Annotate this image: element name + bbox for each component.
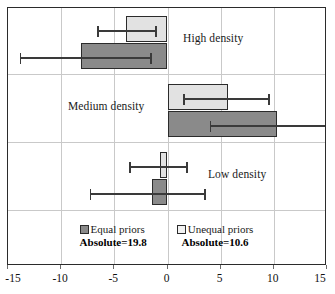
legend-swatch-equal-icon — [80, 225, 89, 234]
group-label-medium-density: Medium density — [68, 100, 144, 112]
error-bar-cap — [183, 94, 184, 105]
legend-absolute-equal: Absolute=19.8 — [80, 236, 147, 250]
error-bar-cap — [90, 189, 91, 200]
x-axis-ticklabel: -5 — [109, 272, 119, 284]
error-bar-cap — [210, 121, 211, 132]
error-bar-cap — [186, 162, 187, 173]
x-axis-ticklabel: -10 — [52, 272, 67, 284]
legend-label-unequal: Unequal priors — [188, 223, 254, 237]
gridline-horizontal — [8, 142, 325, 143]
bar-unequal-priors — [168, 84, 229, 110]
legend-absolute-unequal: Absolute=10.6 — [177, 236, 254, 250]
chart-legend: Equal priors Absolute=19.8 Unequal prior… — [8, 223, 325, 251]
bar-unequal-priors — [126, 16, 167, 42]
bar-equal-priors — [81, 43, 167, 69]
x-axis-tickmark — [273, 265, 274, 269]
legend-entry-unequal-priors: Unequal priors Absolute=10.6 — [177, 223, 254, 251]
legend-swatch-unequal-icon — [177, 225, 186, 234]
error-bar-line — [20, 57, 152, 58]
legend-top-unequal: Unequal priors — [177, 223, 254, 237]
x-axis-tickmark — [60, 265, 61, 269]
error-bar-line — [97, 30, 157, 31]
error-bar-line — [183, 98, 269, 99]
x-axis-tickmark — [113, 265, 114, 269]
error-bar-cap — [129, 162, 130, 173]
legend-label-equal: Equal priors — [91, 223, 145, 237]
chart-root: High densityMedium densityLow density Eq… — [0, 0, 335, 294]
x-axis-tickmark — [7, 265, 8, 269]
x-axis-tickmark — [220, 265, 221, 269]
gridline-horizontal — [8, 210, 325, 211]
error-bar-line — [90, 193, 206, 194]
error-bar-line — [210, 125, 326, 126]
x-axis-ticklabel: 0 — [164, 272, 170, 284]
group-label-high-density: High density — [183, 32, 243, 44]
plot-area: High densityMedium densityLow density Eq… — [7, 7, 326, 265]
x-axis-ticklabel: -15 — [5, 272, 20, 284]
x-axis-ticklabel: 15 — [314, 272, 326, 284]
gridline-horizontal — [8, 74, 325, 75]
error-bar-cap — [97, 26, 98, 37]
x-axis-tickmark — [167, 265, 168, 269]
error-bar-line — [129, 166, 187, 167]
group-label-low-density: Low density — [208, 168, 266, 180]
legend-top-equal: Equal priors — [80, 223, 147, 237]
error-bar-cap — [204, 189, 205, 200]
error-bar-cap — [20, 53, 21, 64]
legend-entry-equal-priors: Equal priors Absolute=19.8 — [80, 223, 147, 251]
bar-unequal-priors — [160, 152, 167, 178]
x-axis-tickmark — [326, 265, 327, 269]
x-axis-ticklabel: 10 — [267, 272, 279, 284]
error-bar-cap — [150, 53, 151, 64]
error-bar-cap — [268, 94, 269, 105]
bar-equal-priors — [168, 111, 278, 137]
x-axis-ticklabel: 5 — [217, 272, 223, 284]
error-bar-cap — [155, 26, 156, 37]
bar-equal-priors — [152, 179, 168, 205]
